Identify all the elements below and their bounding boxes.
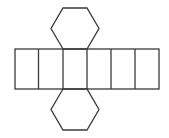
bottom-hexagon-face xyxy=(51,89,99,130)
top-hexagon-face xyxy=(51,8,99,49)
hexagonal-prism-net xyxy=(0,0,169,138)
face-dividers xyxy=(39,49,136,89)
